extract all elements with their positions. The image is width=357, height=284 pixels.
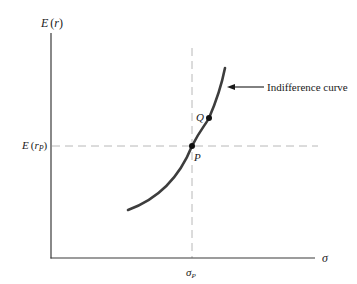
point-q-label: Q [196,111,204,123]
arrow-left-icon [227,84,235,90]
x-axis-label: σ [322,251,329,265]
point-p [189,143,195,149]
y-axis-label: E(r) [40,16,63,30]
y-tick-label-expected-return-p: E(rP) [21,139,48,153]
annotation-label: Indifference curve [267,81,348,93]
indifference-curve [128,68,225,210]
point-q [206,115,212,121]
x-tick-label-sigma-p: σP [186,266,196,280]
indifference-curve-diagram: Indifference curve E(r) E(rP) σ σP P Q [0,0,357,284]
point-p-label: P [193,151,201,163]
